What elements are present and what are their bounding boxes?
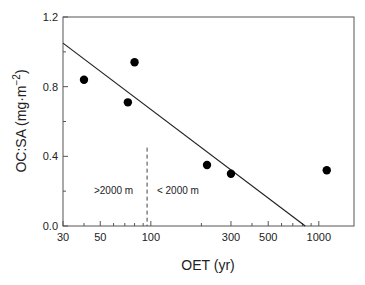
- data-point: [203, 161, 211, 169]
- x-tick-label: 1000: [307, 231, 331, 243]
- x-tick-label: 30: [57, 231, 69, 243]
- data-point: [323, 166, 331, 174]
- depth-annotation: < 2000 m: [157, 185, 199, 196]
- x-axis-ticks: 30501003005001000: [57, 221, 331, 243]
- x-tick-label: 100: [142, 231, 160, 243]
- data-point: [130, 58, 138, 66]
- data-points: [80, 58, 331, 178]
- y-tick-label: 0.0: [43, 220, 58, 232]
- data-point: [80, 76, 88, 84]
- scatter-chart: 30501003005001000 0.00.40.81.2 >2000 m< …: [0, 0, 365, 285]
- x-tick-label: 50: [94, 231, 106, 243]
- annotations: >2000 m< 2000 m: [94, 185, 199, 196]
- y-tick-label: 1.2: [43, 11, 58, 23]
- x-tick-label: 300: [222, 231, 240, 243]
- data-point: [227, 170, 235, 178]
- x-tick-label: 500: [259, 231, 277, 243]
- data-point: [124, 98, 132, 106]
- x-axis-title: OET (yr): [181, 257, 234, 273]
- y-axis-title: OC:SA (mg·m−2): [11, 69, 29, 172]
- depth-annotation: >2000 m: [94, 185, 133, 196]
- fit-line: [63, 43, 305, 226]
- y-tick-label: 0.8: [43, 81, 58, 93]
- y-tick-label: 0.4: [43, 150, 58, 162]
- regression-line: [63, 43, 305, 226]
